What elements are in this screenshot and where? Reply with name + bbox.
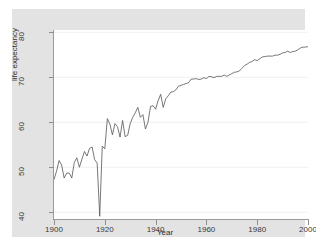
- graph-region: 4050607080 190019201940196019802000 life…: [12, 9, 305, 237]
- x-axis-title: Year: [0, 228, 316, 237]
- y-tick-label-50: 50: [18, 167, 26, 191]
- y-tick-label-70: 70: [18, 77, 26, 101]
- y-tick-80: [49, 32, 54, 33]
- x-axis-title-text: Year: [157, 228, 173, 237]
- plot-svg: [54, 30, 308, 219]
- y-axis-line: [53, 30, 54, 220]
- gridlines: [54, 32, 308, 212]
- y-tick-60: [49, 122, 54, 123]
- y-tick-label-60: 60: [18, 122, 26, 146]
- y-tick-50: [49, 167, 54, 168]
- y-tick-70: [49, 77, 54, 78]
- plot-region: [54, 30, 308, 219]
- y-tick-40: [49, 212, 54, 213]
- chart-screenshot: 4050607080 190019201940196019802000 life…: [0, 0, 316, 252]
- life-expectancy-line: [54, 47, 308, 217]
- y-axis-title: life expectancy: [10, 28, 19, 81]
- x-axis-line: [53, 219, 309, 220]
- y-tick-label-80: 80: [18, 32, 26, 56]
